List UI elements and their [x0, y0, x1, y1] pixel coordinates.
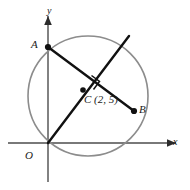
point-b-label: B: [139, 104, 146, 115]
x-axis-label: x: [173, 137, 177, 147]
y-axis-label: y: [47, 6, 51, 16]
y-axis: [44, 16, 52, 182]
origin-label: O: [25, 150, 33, 161]
y-axis-arrow: [44, 16, 52, 25]
geometry-figure: A B O C (2, 5) x y: [0, 0, 190, 190]
line-oc-extended: [48, 36, 129, 143]
point-a-dot: [45, 44, 51, 50]
point-b-dot: [131, 108, 137, 114]
point-a-label: A: [31, 39, 38, 50]
x-axis: [8, 139, 176, 147]
point-c-label: C (2, 5): [84, 94, 118, 105]
point-c-dot: [80, 87, 86, 93]
